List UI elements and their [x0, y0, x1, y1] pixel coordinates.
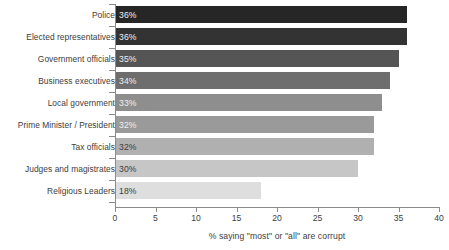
bar: 18%	[115, 182, 261, 199]
x-axis-tick	[277, 207, 278, 212]
bar-track: 18%	[115, 182, 449, 199]
category-label: Police	[0, 10, 115, 20]
y-axis-tick	[109, 4, 115, 5]
bar-value-label: 18%	[119, 186, 137, 196]
bar-value-label: 36%	[119, 32, 137, 42]
y-axis-tick	[109, 114, 115, 115]
y-axis-tick	[109, 26, 115, 27]
y-axis-tick	[109, 158, 115, 159]
category-label: Government officials	[0, 54, 115, 64]
x-axis-title: % saying "most" or "all" are corrupt	[115, 231, 439, 242]
category-label: Local government	[0, 98, 115, 108]
x-axis-tick	[115, 207, 116, 212]
bar: 36%	[115, 6, 407, 23]
x-axis-tick	[156, 207, 157, 212]
bar-chart: Police36%Elected representatives36%Gover…	[0, 0, 449, 250]
bar-track: 36%	[115, 6, 449, 23]
y-axis-tick	[109, 92, 115, 93]
bar: 30%	[115, 160, 358, 177]
category-label: Judges and magistrates	[0, 164, 115, 174]
x-axis-tick	[237, 207, 238, 212]
category-label: Religious Leaders	[0, 186, 115, 196]
bar: 33%	[115, 94, 382, 111]
y-axis-tick	[109, 48, 115, 49]
x-axis-tick	[358, 207, 359, 212]
bar-row: Business executives34%	[0, 70, 449, 92]
bar-row: Judges and magistrates30%	[0, 158, 449, 180]
x-axis-tick-label: 15	[222, 213, 252, 223]
bar-row: Prime Minister / President32%	[0, 114, 449, 136]
bar-track: 30%	[115, 160, 449, 177]
y-axis-tick	[109, 202, 115, 203]
bar-rows: Police36%Elected representatives36%Gover…	[0, 4, 449, 202]
y-axis-tick	[109, 70, 115, 71]
bar-track: 32%	[115, 116, 449, 133]
y-axis-tick	[109, 180, 115, 181]
bar-value-label: 36%	[119, 10, 137, 20]
bar-value-label: 33%	[119, 98, 137, 108]
x-axis-tick-label: 25	[303, 213, 333, 223]
bar: 35%	[115, 50, 399, 67]
x-axis-tick-label: 0	[100, 213, 130, 223]
x-axis-tick-label: 40	[424, 213, 449, 223]
plot-area: Police36%Elected representatives36%Gover…	[0, 0, 449, 211]
x-axis-tick-label: 30	[343, 213, 373, 223]
x-axis-tick	[196, 207, 197, 212]
bar-track: 33%	[115, 94, 449, 111]
bar-value-label: 32%	[119, 142, 137, 152]
x-axis-tick-label: 10	[181, 213, 211, 223]
bar: 32%	[115, 116, 374, 133]
bar-track: 34%	[115, 72, 449, 89]
bar: 34%	[115, 72, 390, 89]
bar-value-label: 32%	[119, 120, 137, 130]
y-axis-tick	[109, 136, 115, 137]
bar: 32%	[115, 138, 374, 155]
x-axis-tick	[318, 207, 319, 212]
bar: 36%	[115, 28, 407, 45]
category-label: Tax officials	[0, 142, 115, 152]
x-axis-tick-label: 20	[262, 213, 292, 223]
bar-row: Tax officials32%	[0, 136, 449, 158]
bar-track: 35%	[115, 50, 449, 67]
bar-row: Religious Leaders18%	[0, 180, 449, 202]
y-axis-line	[115, 4, 116, 207]
category-label: Business executives	[0, 76, 115, 86]
bar-value-label: 35%	[119, 54, 137, 64]
x-axis-tick-label: 35	[384, 213, 414, 223]
bar-row: Police36%	[0, 4, 449, 26]
bar-track: 36%	[115, 28, 449, 45]
category-label: Prime Minister / President	[0, 120, 115, 130]
bar-value-label: 30%	[119, 164, 137, 174]
bar-track: 32%	[115, 138, 449, 155]
bar-value-label: 34%	[119, 76, 137, 86]
x-axis-tick	[399, 207, 400, 212]
bar-row: Local government33%	[0, 92, 449, 114]
category-label: Elected representatives	[0, 32, 115, 42]
x-axis-tick-label: 5	[141, 213, 171, 223]
x-axis-tick	[439, 207, 440, 212]
bar-row: Government officials35%	[0, 48, 449, 70]
bar-row: Elected representatives36%	[0, 26, 449, 48]
